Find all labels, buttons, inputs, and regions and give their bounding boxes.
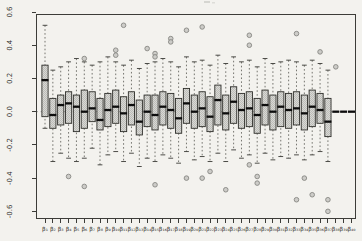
boxplot-group-β₃: [57, 67, 64, 153]
outlier-point: [255, 181, 260, 186]
boxplot-group-β₁: [42, 25, 49, 128]
outlier-point: [184, 28, 189, 33]
outlier-point: [318, 50, 323, 55]
outlier-point: [113, 53, 118, 58]
boxplot-group-β₂₃: [214, 55, 221, 153]
boxplot-group-β₁₄: [144, 46, 151, 158]
iqr-box: [262, 90, 268, 125]
boxplot-group-β₂₅: [230, 57, 237, 150]
iqr-box: [317, 93, 323, 123]
iqr-box: [215, 85, 221, 125]
iqr-box: [160, 92, 166, 125]
iqr-box: [278, 92, 284, 127]
boxplot-group-β₂₉: [262, 59, 269, 154]
x-tick-label: β₁: [42, 226, 48, 233]
boxplot-group-β₁₃: [136, 68, 143, 166]
x-tick-label: β₂: [50, 226, 56, 233]
boxplot-group-β₂₀: [191, 62, 198, 160]
outlier-point: [82, 184, 87, 189]
x-tick-label: β₃: [58, 226, 64, 233]
iqr-box: [325, 98, 331, 136]
boxplot-group-β₄: [65, 62, 72, 179]
outlier-point: [333, 65, 338, 70]
outlier-point: [82, 56, 87, 61]
x-tick-label: β₁₅: [151, 226, 159, 233]
boxplot-group-β₁₇: [167, 36, 174, 158]
boxplot-group-β₃₅: [309, 60, 316, 197]
clipped-title-fragment: [204, 1, 215, 4]
iqr-box: [58, 95, 64, 125]
outlier-point: [121, 23, 126, 28]
x-tick-label: β₁₃: [135, 226, 143, 233]
outlier-point: [302, 176, 307, 181]
outlier-point: [113, 48, 118, 53]
boxplot-group-β₂₂: [207, 65, 214, 174]
x-tick-label: β₄: [66, 226, 73, 233]
title-fragment-mark: [212, 2, 215, 4]
boxplot-group-β₃₄: [301, 65, 308, 180]
x-tick-label: β₄₀: [347, 226, 356, 233]
y-tick-label: 0.0: [7, 106, 15, 117]
iqr-box: [50, 98, 56, 128]
iqr-box: [97, 98, 103, 130]
boxplot-group-β₂₆: [238, 62, 245, 158]
y-tick-label: -0.4: [7, 171, 15, 185]
y-tick-label: 0.2: [7, 73, 15, 84]
y-tick-label: -0.6: [7, 204, 15, 218]
iqr-box: [176, 98, 182, 133]
outlier-point: [153, 182, 158, 187]
outlier-point: [294, 197, 299, 202]
outlier-point: [294, 31, 299, 36]
boxplot-group-β₇: [89, 65, 96, 148]
x-tick-label: β₃₁: [277, 226, 285, 233]
iqr-box: [89, 92, 95, 122]
outlier-point: [184, 176, 189, 181]
boxplot-group-β₁₂: [128, 60, 135, 153]
outlier-point: [247, 163, 252, 168]
outlier-point: [208, 169, 213, 174]
outlier-point: [255, 174, 260, 179]
iqr-box: [231, 87, 237, 124]
boxes-layer: [42, 23, 356, 214]
x-tick-label: β₂₇: [245, 226, 253, 233]
boxplot-group-β₃₆: [317, 50, 324, 152]
x-tick-label: β₉: [105, 226, 112, 233]
boxplot-group-β₂₄: [222, 64, 229, 193]
iqr-box: [81, 90, 87, 128]
boxplot-group-β₂₁: [199, 25, 206, 181]
outlier-point: [200, 176, 205, 181]
x-tick-label: β₅: [74, 226, 80, 233]
iqr-box: [65, 92, 71, 124]
x-tick-label: β₃₇: [324, 226, 332, 233]
boxplot-group-β₂₈: [254, 67, 261, 186]
iqr-box: [207, 97, 213, 132]
x-tick-label: β₁₁: [120, 226, 128, 233]
boxplot-group-β₉: [104, 57, 111, 155]
title-fragment-mark: [204, 1, 210, 3]
outlier-point: [247, 33, 252, 38]
iqr-box: [183, 88, 189, 123]
x-tick-label: β₂₃: [214, 226, 222, 233]
iqr-box: [136, 100, 142, 135]
x-tick-label: β₈: [97, 226, 104, 233]
x-tick-label: β₂₅: [230, 226, 238, 233]
y-tick-label: 0.6: [7, 6, 15, 18]
boxplot-group-β₃₂: [285, 60, 292, 158]
x-tick-label: β₃₃: [292, 226, 300, 233]
outlier-point: [326, 209, 331, 214]
outlier-point: [66, 174, 71, 179]
iqr-box: [309, 90, 315, 127]
x-tick-label: β₂₁: [198, 226, 206, 233]
outlier-point: [326, 197, 331, 202]
iqr-box: [128, 92, 134, 125]
iqr-box: [152, 95, 158, 130]
x-tick-label: β₁₇: [167, 226, 175, 233]
outlier-point: [168, 40, 173, 45]
boxplot-group-β₃₈: [332, 65, 339, 112]
boxplot-group-β₃₁: [277, 62, 284, 157]
y-tick-label: -0.2: [7, 138, 15, 152]
outlier-point: [145, 46, 150, 51]
boxplot-group-β₁₀: [112, 48, 119, 152]
y-tick-label: 0.4: [7, 39, 15, 51]
boxplot-group-β₂: [49, 70, 56, 161]
